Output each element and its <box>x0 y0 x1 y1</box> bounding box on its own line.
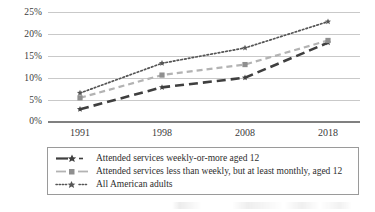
plot-area: 25% 20% 15% 10% 5% 0% 1991 1998 2008 201… <box>0 0 375 140</box>
line-chart-figure: 25% 20% 15% 10% 5% 0% 1991 1998 2008 201… <box>0 0 375 212</box>
series-layer <box>0 0 375 140</box>
legend: Attended services weekly-or-more aged 12… <box>47 147 359 195</box>
legend-key-dash-square-icon <box>55 166 91 177</box>
legend-label-less-than-weekly: Attended services less than weekly, but … <box>96 166 342 177</box>
legend-label-weekly-or-more: Attended services weekly-or-more aged 12 <box>96 153 259 164</box>
page-body-text-fragment <box>52 202 352 209</box>
legend-key-long-dash-star-icon <box>55 153 91 164</box>
legend-item-less-than-weekly: Attended services less than weekly, but … <box>55 165 342 178</box>
legend-key-dotted-star-icon <box>55 179 91 190</box>
legend-label-all-american-adults: All American adults <box>96 179 173 190</box>
legend-item-weekly-or-more: Attended services weekly-or-more aged 12 <box>55 152 259 165</box>
legend-item-all-american-adults: All American adults <box>55 178 173 191</box>
